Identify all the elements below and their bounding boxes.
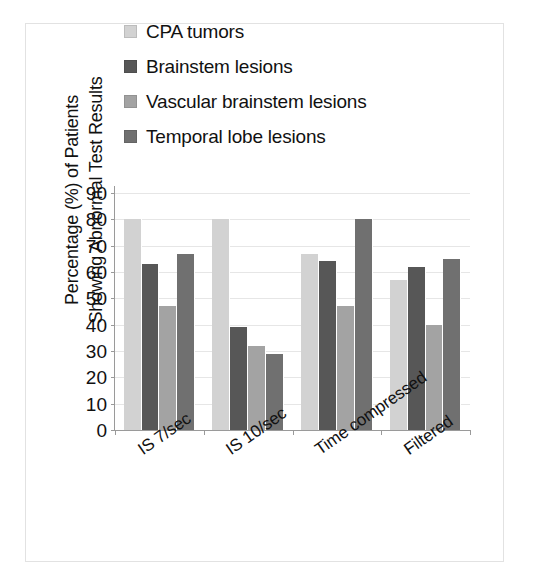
bar[interactable] (159, 306, 177, 430)
y-axis-line (114, 186, 115, 430)
y-tick-mark (111, 325, 115, 326)
bar-group (124, 193, 195, 430)
y-tick-label: 0 (96, 421, 107, 440)
plot-area: 0102030405060708090 (115, 193, 470, 430)
y-tick-mark (111, 246, 115, 247)
bar[interactable] (124, 219, 142, 430)
bar[interactable] (355, 219, 373, 430)
legend-swatch-icon-series-3 (124, 95, 137, 108)
y-tick-mark (111, 272, 115, 273)
bar[interactable] (230, 327, 248, 430)
bar[interactable] (408, 267, 426, 430)
legend-label-series-4: Temporal lobe lesions (146, 127, 326, 146)
bar[interactable] (337, 306, 355, 430)
y-tick-mark (111, 351, 115, 352)
chart-legend: CPA tumors Brainstem lesions Vascular br… (124, 14, 464, 154)
bar[interactable] (319, 261, 337, 430)
bar-group (212, 193, 283, 430)
legend-item-temporal-lobe-lesions: Temporal lobe lesions (124, 119, 464, 154)
bar-group (301, 193, 372, 430)
legend-swatch-icon-series-2 (124, 60, 137, 73)
bar[interactable] (212, 219, 230, 430)
x-tick-mark (381, 430, 382, 435)
bar[interactable] (443, 259, 461, 430)
y-tick-label: 40 (86, 315, 107, 334)
legend-label-series-2: Brainstem lesions (146, 57, 293, 76)
x-tick-mark (470, 430, 471, 435)
legend-label-series-3: Vascular brainstem lesions (146, 92, 366, 111)
y-tick-label: 80 (86, 210, 107, 229)
x-tick-mark (204, 430, 205, 435)
legend-swatch-icon-series-1 (124, 25, 137, 38)
y-tick-label: 50 (86, 289, 107, 308)
x-tick-mark (293, 430, 294, 435)
plot-inner (115, 193, 470, 430)
y-tick-label: 90 (86, 184, 107, 203)
bar[interactable] (301, 254, 319, 430)
y-tick-mark (111, 193, 115, 194)
bar-chart-figure: CPA tumors Brainstem lesions Vascular br… (0, 0, 536, 582)
legend-label-series-1: CPA tumors (146, 22, 244, 41)
bar[interactable] (142, 264, 160, 430)
y-tick-mark (111, 404, 115, 405)
y-tick-label: 60 (86, 263, 107, 282)
x-tick-mark (115, 430, 116, 435)
y-tick-mark (111, 219, 115, 220)
y-axis-title-line-1: Percentage (%) of Patients (60, 95, 84, 305)
y-tick-label: 20 (86, 368, 107, 387)
y-tick-mark (111, 377, 115, 378)
y-tick-label: 70 (86, 236, 107, 255)
bar[interactable] (177, 254, 195, 430)
y-tick-mark (111, 298, 115, 299)
legend-swatch-icon-series-4 (124, 130, 137, 143)
legend-item-brainstem-lesions: Brainstem lesions (124, 49, 464, 84)
legend-item-cpa-tumors: CPA tumors (124, 14, 464, 49)
legend-item-vascular-brainstem-lesions: Vascular brainstem lesions (124, 84, 464, 119)
y-tick-label: 30 (86, 342, 107, 361)
y-tick-label: 10 (86, 394, 107, 413)
